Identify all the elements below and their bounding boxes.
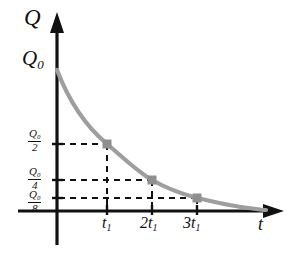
decay-curve [57,70,266,210]
y-tick-eighth-num-symbol: Q [29,188,37,200]
y-tick-half-denominator: 2 [28,142,41,153]
y-tick-eighth-num-subscript: 0 [37,194,40,201]
x-tick-2t1-main: 2t [140,214,152,231]
y-axis-title: Q [24,6,41,29]
y-tick-quarter-num-symbol: Q [29,165,37,177]
initial-value-main: Q [22,46,37,70]
x-tick-t1-subscript: 1 [106,222,111,233]
y-tick-label-eighth: Q0 8 [28,189,41,214]
x-tick-2t1-subscript: 1 [152,222,157,233]
decay-curve-chart: Q t Q0 Q0 2 Q0 4 Q0 8 t1 2t1 3t1 [0,0,297,267]
data-point-t1 [103,140,112,149]
y-tick-half-numerator: Q0 [28,128,41,142]
y-tick-quarter-num-subscript: 0 [37,171,40,178]
y-tick-label-half: Q0 2 [28,128,41,153]
x-tick-label-t1: t1 [102,215,111,233]
y-tick-quarter-numerator: Q0 [28,166,41,180]
y-tick-half-num-subscript: 0 [37,133,40,140]
x-tick-label-2t1: 2t1 [140,215,157,233]
initial-value-subscript: 0 [37,57,44,72]
data-point-2t1 [148,176,157,185]
x-tick-3t1-main: 3t [183,214,195,231]
guide-lines [59,144,197,210]
x-tick-label-3t1: 3t1 [183,215,200,233]
initial-value-label: Q0 [22,48,44,71]
y-tick-eighth-numerator: Q0 [28,189,41,203]
data-point-3t1 [193,194,202,203]
x-axis-title: t [258,215,263,233]
y-tick-half-num-symbol: Q [29,127,37,139]
x-tick-3t1-subscript: 1 [195,222,200,233]
y-tick-eighth-denominator: 8 [28,203,41,214]
